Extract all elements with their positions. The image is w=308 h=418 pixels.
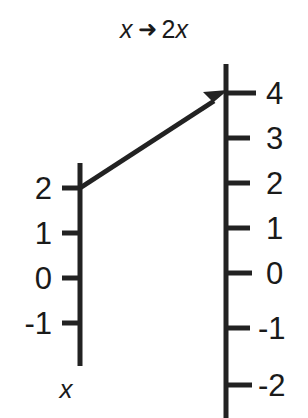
- codomain-tick-label-2: 2: [266, 166, 283, 201]
- codomain-tick-label-1: 1: [266, 211, 283, 246]
- diagram-canvas: 2 1 0 -1 x 4 3 2 1: [0, 0, 308, 418]
- domain-axis: 2 1 0 -1 x: [24, 163, 80, 404]
- domain-axis-ticks: [62, 188, 80, 323]
- domain-axis-label: x: [58, 374, 74, 404]
- codomain-axis-tick-labels: 4 3 2 1 0 -1 -2: [258, 76, 286, 403]
- domain-axis-tick-labels: 2 1 0 -1: [24, 171, 52, 341]
- codomain-tick-label-4: 4: [266, 76, 283, 111]
- codomain-tick-label-neg2: -2: [258, 368, 286, 403]
- codomain-tick-label-neg1: -1: [258, 311, 286, 346]
- function-mapping-diagram: x➜2x 2 1 0 -1 x: [0, 0, 308, 418]
- mapping-arrow: [80, 90, 228, 188]
- domain-tick-label-2: 2: [35, 171, 52, 206]
- codomain-tick-label-0: 0: [266, 256, 283, 291]
- domain-tick-label-0: 0: [35, 261, 52, 296]
- domain-tick-label-1: 1: [35, 216, 52, 251]
- codomain-tick-label-3: 3: [266, 121, 283, 156]
- domain-tick-label-neg1: -1: [24, 306, 52, 341]
- codomain-axis: 4 3 2 1 0 -1 -2: [226, 64, 286, 418]
- codomain-axis-ticks: [226, 93, 256, 385]
- mapping-arrow-shaft: [80, 101, 214, 188]
